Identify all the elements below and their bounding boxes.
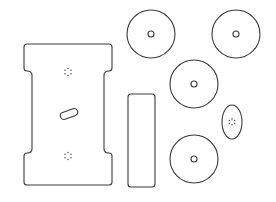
disc-outline	[170, 60, 218, 108]
bolt-hole	[234, 120, 236, 122]
rectangular-bar	[128, 94, 155, 187]
oval-outline	[222, 105, 242, 139]
center-hole	[191, 81, 197, 87]
disc-2	[212, 10, 260, 58]
bolt-hole	[229, 120, 231, 122]
center-hole	[148, 31, 154, 37]
bolt-hole	[70, 73, 72, 75]
bolt-hole	[64, 69, 66, 71]
bolt-hole	[67, 75, 69, 77]
cut-pattern-diagram	[0, 0, 276, 202]
main-plate	[24, 44, 112, 185]
bolt-hole	[67, 159, 69, 161]
center-hole	[233, 31, 239, 37]
disc-1	[127, 10, 175, 58]
bolt-hole	[64, 157, 66, 159]
center-hole	[191, 156, 197, 162]
disc-3	[170, 60, 218, 108]
oval-plate	[222, 105, 242, 139]
slot	[59, 108, 78, 121]
disc-outline	[170, 135, 218, 183]
bolt-hole	[70, 153, 72, 155]
bolt-hole	[229, 123, 231, 125]
bolt-pattern-bottom	[64, 152, 72, 161]
bolt-hole	[64, 153, 66, 155]
bolt-hole	[67, 152, 69, 154]
disc-4	[170, 135, 218, 183]
drawing-canvas	[0, 0, 276, 202]
plate-outline	[24, 44, 112, 185]
bolt-pattern-top	[64, 68, 72, 77]
bolt-hole	[234, 123, 236, 125]
bar-outline	[128, 94, 155, 187]
disc-outline	[127, 10, 175, 58]
bolt-hole	[67, 68, 69, 70]
bolt-hole	[70, 157, 72, 159]
bolt-hole	[231, 118, 233, 120]
oval-bolt-pattern	[229, 118, 236, 126]
disc-group	[127, 10, 260, 183]
bolt-hole	[70, 69, 72, 71]
disc-outline	[212, 10, 260, 58]
bolt-hole	[231, 124, 233, 126]
bolt-hole	[64, 73, 66, 75]
